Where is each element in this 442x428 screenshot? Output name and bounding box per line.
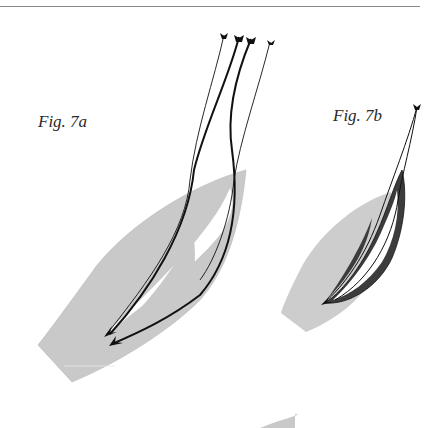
arrow-tip-7b — [413, 104, 421, 110]
diagram-canvas — [0, 0, 442, 428]
arrow-tip-7a-3 — [246, 37, 256, 44]
arrow-tip-7a-2 — [234, 35, 244, 42]
hull-partial-bottom-wedge — [262, 418, 295, 428]
book-page: Fig. 7a Fig. 7b — [0, 0, 442, 428]
arrow-tip-7a-4 — [267, 40, 275, 45]
figure-7a — [38, 33, 275, 382]
hull-7a — [38, 170, 246, 382]
arrow-tip-7a-1 — [220, 33, 228, 39]
figure-label-7a: Fig. 7a — [38, 112, 87, 132]
figure-7b — [281, 104, 421, 332]
figure-label-7b: Fig. 7b — [333, 106, 382, 126]
